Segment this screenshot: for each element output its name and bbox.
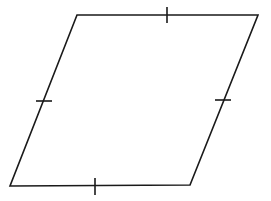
rhombus-diagram	[0, 0, 271, 201]
equal-side-tick-marks	[36, 7, 231, 195]
